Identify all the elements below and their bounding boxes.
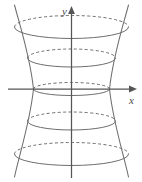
y-axis-label: y [62, 6, 67, 17]
x-axis-label: x [129, 95, 134, 106]
y-axis-arrowhead [68, 6, 75, 14]
axes [8, 6, 137, 178]
hyperboloid-drawing [0, 0, 142, 182]
x-axis-arrowhead [129, 86, 137, 93]
hyperboloid-figure: y x [0, 0, 142, 182]
